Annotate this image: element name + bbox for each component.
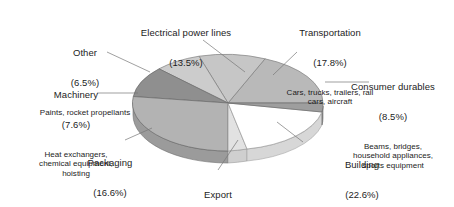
- label-percent-building: (22.6%): [300, 189, 424, 200]
- label-percent-consumer-durables: (8.5%): [334, 111, 452, 122]
- label-title-consumer-durables: Consumer durables: [334, 81, 452, 92]
- label-other: Other (6.5%) Paints, rocket propellants: [18, 28, 152, 136]
- label-title-building: Building: [300, 159, 424, 170]
- label-export: Export (6.9%): [182, 170, 254, 207]
- label-percent-other: (6.5%): [18, 77, 152, 88]
- pie-chart-figure: Electrical power lines (13.5%) Transport…: [0, 0, 454, 207]
- label-title-other: Other: [18, 47, 152, 58]
- label-building: Building (22.6%) Windows, doors, screens…: [300, 140, 424, 207]
- label-title-export: Export: [182, 189, 254, 200]
- label-desc-other: Paints, rocket propellants: [18, 108, 152, 118]
- label-title-transportation: Transportation: [268, 27, 392, 38]
- label-desc-machinery: Heat exchangers, chemical equipment, hoi…: [20, 150, 132, 179]
